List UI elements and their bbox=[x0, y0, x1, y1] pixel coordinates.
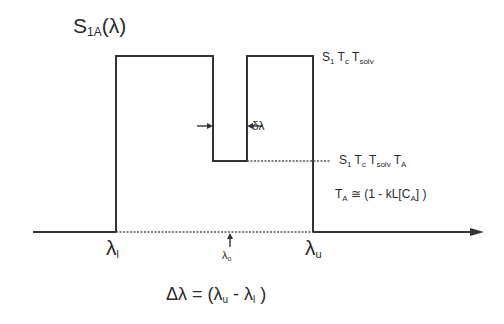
arrowhead-up-icon bbox=[227, 233, 233, 239]
spectral-profile-diagram bbox=[0, 0, 504, 324]
transmission-profile bbox=[116, 56, 313, 232]
absorbance-transmission-equation: TA ≅ (1 - kL[CA] ) bbox=[335, 187, 426, 203]
axis-arrowhead-icon bbox=[470, 228, 484, 236]
center-wavelength-label: λo bbox=[222, 249, 231, 262]
diagram-title: S1A(λ) bbox=[73, 14, 126, 39]
notch-width-label: δλ bbox=[252, 119, 264, 133]
top-level-label: S1 Tc Tsolv bbox=[322, 50, 374, 66]
notch-level-label: S1 Tc Tsolv TA bbox=[339, 153, 406, 169]
bandwidth-equation: Δλ = (λu - λl ) bbox=[166, 284, 266, 305]
upper-wavelength-label: λu bbox=[305, 236, 322, 260]
lower-wavelength-label: λl bbox=[106, 236, 119, 260]
